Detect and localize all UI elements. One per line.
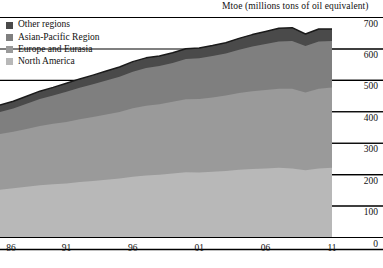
legend-swatch-other-regions [6, 22, 13, 29]
y-axis-label-600: 600 [352, 50, 378, 60]
y-axis-label-200: 200 [352, 176, 378, 186]
x-axis-label-11: 11 [320, 243, 344, 253]
legend-item-other-regions[interactable]: Other regions [6, 19, 100, 31]
legend: Other regions Asian-Pacific Region Europ… [6, 19, 100, 68]
x-axis-label-86: 86 [0, 243, 23, 253]
y-axis-label-100: 100 [352, 207, 378, 217]
x-axis-label-96: 96 [121, 243, 145, 253]
x-axis-label-01: 01 [187, 243, 211, 253]
legend-swatch-europe-eurasia [6, 46, 13, 53]
y-axis-label-500: 500 [352, 81, 378, 91]
legend-label-europe-eurasia: Europe and Eurasia [18, 45, 92, 55]
legend-swatch-north-america [6, 58, 13, 65]
legend-swatch-asian-pacific [6, 34, 13, 41]
x-axis-label-91: 91 [54, 243, 78, 253]
y-axis-label-700: 700 [352, 19, 378, 29]
legend-item-europe-eurasia[interactable]: Europe and Eurasia [6, 43, 100, 55]
y-axis-label-400: 400 [352, 113, 378, 123]
y-axis-label-300: 300 [352, 144, 378, 154]
legend-label-asian-pacific: Asian-Pacific Region [18, 33, 100, 43]
stacked-area-chart-figure: Mtoe (millions tons of oil equivalent) O… [0, 0, 383, 268]
legend-label-other-regions: Other regions [18, 20, 70, 30]
x-axis-label-06: 06 [254, 243, 278, 253]
legend-item-asian-pacific[interactable]: Asian-Pacific Region [6, 31, 100, 43]
legend-label-north-america: North America [18, 57, 75, 67]
y-axis-label-0: 0 [352, 239, 378, 249]
legend-item-north-america[interactable]: North America [6, 56, 100, 68]
